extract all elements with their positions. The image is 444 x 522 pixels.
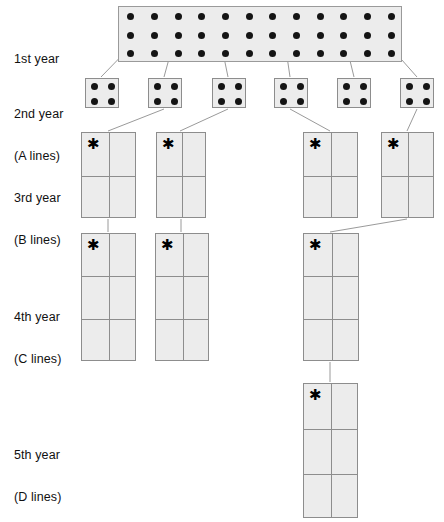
nursery-dot (246, 13, 253, 20)
year-2-plot (148, 78, 182, 108)
year-3-plot: ✱ (381, 132, 434, 218)
selection-star-icon: ✱ (87, 238, 100, 253)
nursery-dot (198, 32, 205, 39)
nursery-dot (151, 50, 158, 57)
grid-divider-vertical (109, 234, 110, 360)
nursery-dot (127, 13, 134, 20)
plot-dot (343, 98, 350, 105)
selection-star-icon: ✱ (309, 238, 322, 253)
nursery-dot (198, 50, 205, 57)
nursery-dot (364, 13, 371, 20)
selection-star-icon: ✱ (161, 238, 174, 253)
nursery-dot (340, 13, 347, 20)
plot-dot (423, 83, 430, 90)
nursery-dot (364, 50, 371, 57)
plot-dot (218, 83, 225, 90)
plot-dot (171, 98, 178, 105)
nursery-dot (269, 13, 276, 20)
connector-line (330, 219, 407, 232)
grid-divider-horizontal (82, 276, 135, 277)
grid-divider-horizontal (304, 429, 357, 430)
nursery-dot (293, 13, 300, 20)
row-label-year-5: 5th year (D lines) (14, 420, 61, 522)
plot-dot (360, 98, 367, 105)
nursery-dot (198, 13, 205, 20)
nursery-dot (222, 50, 229, 57)
plot-dot (154, 83, 161, 90)
plot-dot (360, 83, 367, 90)
grid-divider-horizontal (156, 276, 208, 277)
plot-dot (91, 83, 98, 90)
grid-divider-horizontal (382, 176, 433, 177)
plot-dot (154, 98, 161, 105)
plot-dot (91, 98, 98, 105)
nursery-dot (364, 32, 371, 39)
nursery-dot (317, 50, 324, 57)
grid-divider-horizontal (304, 319, 358, 320)
plot-dot (280, 98, 287, 105)
grid-divider-vertical (331, 384, 332, 517)
selection-star-icon: ✱ (309, 388, 322, 403)
nursery-dot (127, 50, 134, 57)
year-4-plot: ✱ (81, 233, 136, 361)
grid-divider-horizontal (304, 176, 357, 177)
plot-dot (406, 98, 413, 105)
selection-star-icon: ✱ (87, 137, 100, 152)
plot-dot (108, 98, 115, 105)
nursery-dot (222, 13, 229, 20)
nursery-dot (269, 50, 276, 57)
nursery-dot (317, 13, 324, 20)
nursery-dot (293, 32, 300, 39)
plot-dot (297, 98, 304, 105)
nursery-dot (175, 32, 182, 39)
year-3-plot: ✱ (303, 132, 358, 218)
grid-divider-horizontal (82, 176, 135, 177)
plot-dot (108, 83, 115, 90)
selection-star-icon: ✱ (309, 137, 322, 152)
plot-dot (343, 83, 350, 90)
year-5-plot: ✱ (303, 383, 358, 518)
year-3-plot: ✱ (81, 132, 136, 218)
nursery-dot (340, 50, 347, 57)
row-label-year-3: 3rd year (B lines) (14, 163, 61, 275)
nursery-dot (293, 50, 300, 57)
plot-dot (235, 83, 242, 90)
nursery-dot (388, 50, 395, 57)
nursery-dot (222, 32, 229, 39)
row-label-year-2-line1: 2nd year (14, 107, 63, 121)
nursery-dot (317, 32, 324, 39)
plot-dot (218, 98, 225, 105)
grid-divider-horizontal (304, 276, 358, 277)
year-2-plot (85, 78, 119, 108)
connector-line (180, 109, 228, 131)
row-label-year-1-line1: 1st year (14, 52, 59, 66)
grid-divider-horizontal (82, 319, 135, 320)
row-label-year-4: 4th year (C lines) (14, 282, 61, 394)
year-2-plot (212, 78, 246, 108)
nursery-dot (388, 32, 395, 39)
year-2-plot (337, 78, 371, 108)
nursery-dot (340, 32, 347, 39)
year-2-plot (274, 78, 308, 108)
plot-dot (171, 83, 178, 90)
nursery-dot (151, 32, 158, 39)
plot-dot (406, 83, 413, 90)
diagram-canvas: 1st year 2nd year (A lines) 3rd year (B … (0, 0, 444, 522)
row-label-year-4-line2: (C lines) (14, 352, 61, 366)
year-4-plot: ✱ (303, 233, 359, 361)
connector-line (290, 109, 330, 131)
plot-dot (297, 83, 304, 90)
row-label-year-4-line1: 4th year (14, 310, 61, 324)
connector-line (108, 109, 164, 131)
grid-divider-horizontal (304, 474, 357, 475)
selection-star-icon: ✱ (162, 137, 175, 152)
row-label-year-3-line1: 3rd year (14, 191, 61, 205)
grid-divider-horizontal (156, 319, 208, 320)
row-label-year-2-line2: (A lines) (14, 149, 63, 163)
connector-line (407, 109, 417, 131)
nursery-dot (127, 32, 134, 39)
row-label-year-3-line2: (B lines) (14, 233, 61, 247)
nursery-dot (175, 13, 182, 20)
plot-dot (235, 98, 242, 105)
nursery-dot (246, 50, 253, 57)
